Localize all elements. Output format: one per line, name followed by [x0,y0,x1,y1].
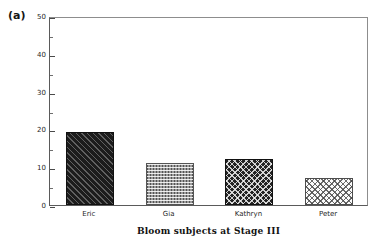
y-axis-major-tick [50,131,55,132]
bar-kathryn [225,159,273,205]
y-axis-minor-tick [50,37,53,38]
y-axis-minor-tick [50,113,53,114]
x-axis-tick-label-gia: Gia [163,210,175,218]
y-axis-tick-label: 40 [24,51,46,59]
y-axis-minor-tick [50,188,53,189]
y-axis-minor-tick [50,75,53,76]
y-axis-major-tick [50,207,55,208]
y-axis-tick-label: 0 [24,202,46,210]
y-axis-major-tick [50,18,55,19]
x-axis-tick-label-peter: Peter [319,210,337,218]
y-axis-major-tick [50,169,55,170]
plot-area [49,17,368,206]
y-axis-minor-tick [50,150,53,151]
x-axis-title: Bloom subjects at Stage III [49,226,368,236]
figure-panel: (a) 01020304050 EricGiaKathrynPeter Bloo… [0,0,378,245]
y-axis-major-tick [50,56,55,57]
y-axis-tick-label: 30 [24,89,46,97]
y-axis-tick-label: 10 [24,164,46,172]
y-axis-tick-label: 50 [24,13,46,21]
bar-eric [66,132,114,205]
y-axis-tick-label: 20 [24,126,46,134]
x-axis-tick-label-kathryn: Kathryn [235,210,262,218]
bar-gia [146,163,194,205]
bar-peter [305,178,353,205]
y-axis-major-tick [50,94,55,95]
x-axis-tick-label-eric: Eric [82,210,95,218]
y-axis-tick-labels: 01020304050 [22,17,46,206]
